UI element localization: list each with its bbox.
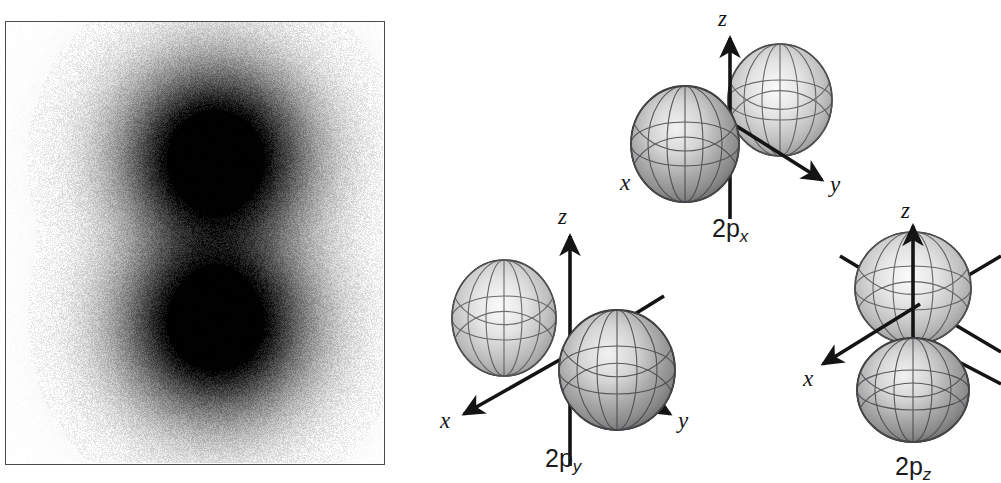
orbital-label-2py-sub: y [573, 457, 582, 476]
axis-label-y-2py: y [676, 408, 689, 433]
orbital-lobe-2px-back [728, 44, 832, 156]
figure-root: z y x 2px [0, 0, 1001, 483]
electron-density-panel [5, 21, 385, 465]
orbital-lobe-2py-back [452, 260, 556, 376]
orbital-label-2px: 2px [712, 214, 748, 247]
orbital-diagram-2py: z y x 2py [432, 198, 712, 483]
orbital-svg-2py: z y x [432, 198, 712, 483]
axis-label-y-2px: y [828, 172, 841, 197]
electron-density-plot [6, 22, 383, 463]
orbital-label-2pz-text: 2p [895, 452, 923, 480]
orbital-label-2px-sub: x [740, 227, 749, 246]
orbital-svg-2pz: z x [795, 198, 1001, 483]
orbital-lobe-2py-front [559, 310, 675, 430]
axis-label-z-2px: z [717, 6, 727, 31]
axis-label-x-2px: x [619, 170, 631, 195]
orbital-label-2pz-sub: z [923, 465, 932, 483]
orbital-label-2px-text: 2p [712, 214, 740, 242]
orbital-lobe-2pz-lower [857, 338, 969, 442]
orbital-label-2pz: 2pz [895, 452, 931, 483]
orbital-diagram-2pz: z x 2pz [795, 198, 1001, 483]
axis-label-x-2py: x [439, 408, 451, 433]
orbital-label-2py-text: 2p [545, 444, 573, 472]
axis-label-z-2pz: z [900, 198, 910, 223]
axis-label-z-2py: z [557, 204, 567, 229]
orbital-lobe-2px-front [631, 86, 739, 202]
axis-label-x-2pz: x [802, 366, 814, 391]
orbital-label-2py: 2py [545, 444, 581, 477]
